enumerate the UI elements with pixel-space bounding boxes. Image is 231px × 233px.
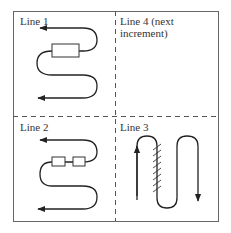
obstacle-rect-2 — [73, 157, 85, 166]
obstacle-rect-1 — [52, 157, 65, 166]
line-1-path — [37, 28, 97, 98]
panel-label-line-1: Line 1 — [20, 15, 48, 27]
obstacle-rect — [52, 44, 79, 57]
line-2-path — [38, 140, 97, 209]
panel-label-line-4: Line 4 (next increment) — [120, 15, 174, 39]
panel-label-line-4-b: increment) — [120, 27, 174, 39]
line-3-path — [137, 136, 198, 208]
diagram-canvas — [0, 0, 231, 233]
panel-label-line-3: Line 3 — [120, 121, 148, 133]
panel-label-line-4-a: Line 4 (next — [120, 15, 174, 27]
panel-label-line-2: Line 2 — [20, 121, 48, 133]
